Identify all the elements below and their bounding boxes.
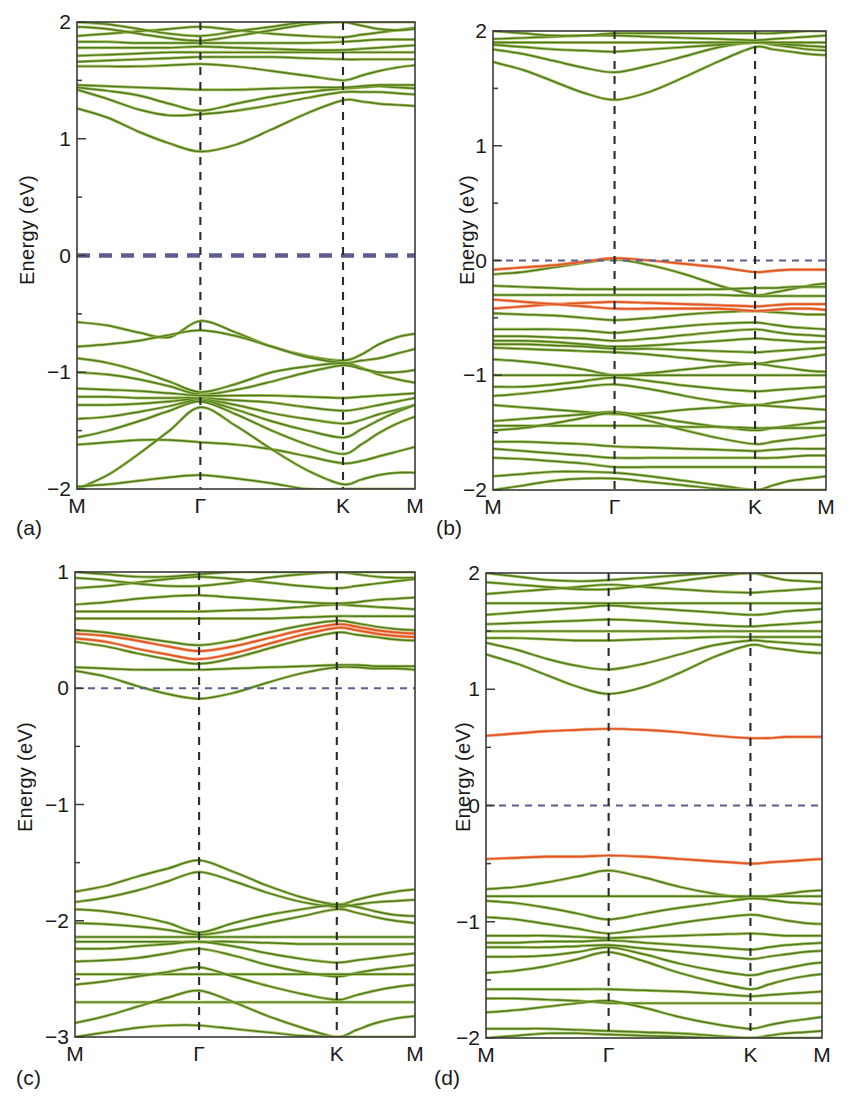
x-tick-label: K bbox=[730, 1044, 770, 1065]
y-tick-label: −1 bbox=[29, 361, 71, 382]
x-tick-label: Γ bbox=[179, 1043, 219, 1064]
band-curve bbox=[486, 645, 822, 694]
panel-d: Energy (eV) 210−1−2 MΓKM (d) bbox=[430, 550, 860, 1106]
band-curve bbox=[486, 855, 822, 863]
panel-c-label: (c) bbox=[16, 1066, 41, 1090]
y-tick-label: 2 bbox=[29, 11, 71, 32]
y-tick-label: 2 bbox=[438, 562, 480, 583]
band-structure-figure: Energy (eV) 210−1−2 MΓKM (a) Energy (eV)… bbox=[0, 0, 860, 1106]
band-curve-halo bbox=[493, 471, 826, 490]
panel-c: Energy (eV) 10−1−2−3 MΓKM (c) bbox=[0, 550, 430, 1106]
x-tick-label: M bbox=[395, 1043, 435, 1064]
x-tick-label: M bbox=[395, 495, 435, 516]
y-tick-label: 1 bbox=[27, 561, 69, 582]
x-tick-label: Γ bbox=[595, 496, 635, 517]
panel-c-plot bbox=[0, 550, 430, 1106]
band-curve bbox=[486, 915, 822, 934]
x-tick-label: M bbox=[802, 1044, 842, 1065]
band-curve bbox=[486, 1001, 822, 1029]
x-tick-label: M bbox=[466, 1044, 506, 1065]
x-tick-label: K bbox=[323, 495, 363, 516]
band-curve bbox=[486, 947, 822, 975]
band-curve bbox=[77, 475, 415, 489]
x-tick-label: K bbox=[317, 1043, 357, 1064]
panel-b: Energy (eV) 210−1−2 MΓKM (b) bbox=[430, 0, 860, 560]
band-curve bbox=[75, 667, 415, 699]
panel-a-plot bbox=[0, 0, 430, 560]
panel-a-ylabel: Energy (eV) bbox=[16, 175, 39, 285]
y-tick-label: 1 bbox=[438, 678, 480, 699]
x-tick-label: M bbox=[806, 496, 846, 517]
panel-a-label: (a) bbox=[16, 516, 42, 540]
x-tick-label: K bbox=[735, 496, 775, 517]
y-tick-label: 1 bbox=[445, 135, 487, 156]
band-curve-halo bbox=[493, 42, 826, 72]
band-curve bbox=[486, 998, 822, 1003]
y-tick-label: −1 bbox=[27, 794, 69, 815]
band-curve bbox=[493, 442, 826, 451]
y-tick-label: 0 bbox=[438, 795, 480, 816]
band-curve bbox=[493, 471, 826, 490]
panel-b-label: (b) bbox=[436, 516, 462, 540]
x-tick-label: Γ bbox=[180, 495, 220, 516]
y-tick-label: −2 bbox=[27, 910, 69, 931]
panel-a: Energy (eV) 210−1−2 MΓKM (a) bbox=[0, 0, 430, 560]
x-tick-label: Γ bbox=[589, 1044, 629, 1065]
y-tick-label: −1 bbox=[438, 911, 480, 932]
panel-b-plot bbox=[430, 0, 860, 560]
band-curve bbox=[493, 384, 826, 405]
plot-frame bbox=[75, 572, 415, 1037]
y-tick-label: 0 bbox=[29, 245, 71, 266]
band-curve-halo bbox=[486, 645, 822, 694]
y-tick-label: 2 bbox=[445, 20, 487, 41]
band-curve-halo bbox=[493, 46, 826, 99]
band-curve bbox=[493, 46, 826, 99]
x-tick-label: M bbox=[55, 1043, 95, 1064]
panel-c-ylabel: Energy (eV) bbox=[14, 722, 37, 832]
band-curve-halo bbox=[486, 640, 822, 669]
y-tick-label: 0 bbox=[27, 677, 69, 698]
y-tick-label: 1 bbox=[29, 128, 71, 149]
y-tick-label: 0 bbox=[445, 250, 487, 271]
x-tick-label: M bbox=[473, 496, 513, 517]
panel-d-plot bbox=[430, 550, 860, 1106]
x-tick-label: M bbox=[57, 495, 97, 516]
panel-d-label: (d) bbox=[434, 1066, 460, 1090]
band-curve bbox=[75, 860, 415, 904]
y-tick-label: −1 bbox=[445, 364, 487, 385]
band-curve bbox=[75, 949, 415, 977]
